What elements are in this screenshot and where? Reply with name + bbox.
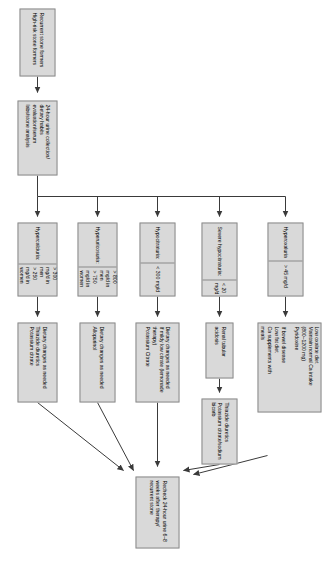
hypocitraturia-tx-line-4: Potassium Citrate — [144, 326, 151, 398]
hyperoxaluria-tx-line-9: meals — [259, 326, 266, 408]
node-diagnosis-hypocitraturia: Hypocitraturia: < 300 mg/d — [139, 222, 175, 296]
node-treatment-severe-hypocitraturia: Thiazide diuretics Potassium citrate/sod… — [201, 398, 237, 464]
hypocitraturia-tx-line-3: therapy) — [150, 326, 157, 398]
flowchart-canvas: Recurrent stone formers High-risk stone … — [0, 0, 329, 561]
hypercalciuria-label: Hypercalciuria: — [18, 223, 56, 263]
hyperoxaluria-tx-line-6: If bowel disease — [279, 326, 286, 408]
node-treatment-hyperoxaluria: Low oxalate diet Maintain normal Ca inta… — [257, 322, 321, 412]
severe-hypocitraturia-tx-line-2: Potassium citrate/sodium — [216, 402, 223, 460]
population-line-1: Recurrent stone formers — [37, 12, 44, 72]
node-population: Recurrent stone formers High-risk stone … — [19, 8, 55, 76]
hypocitraturia-tx-line-1: Dietary changes as needed — [164, 326, 171, 398]
rta-line-1: Renal tubular acidosis — [212, 326, 225, 374]
hypercalciuria-tx-line-2: Thiazide diuretics — [34, 326, 41, 398]
hyperoxaluria-tx-line-3: (800–1200 mg) — [299, 326, 306, 408]
node-workup: 24-hour urine collection/ dietary habits… — [17, 100, 57, 175]
hyperoxaluria-tx-spacer — [286, 326, 293, 408]
hyperuricosuria-tx-line-1: Dietary changes as needed — [97, 326, 104, 398]
figure-rotation-wrapper: Recurrent stone formers High-risk stone … — [0, 0, 329, 561]
node-treatment-hypocitraturia: Dietary changes as needed If mildy low c… — [135, 322, 179, 402]
population-line-2: High-risk stone formers — [30, 12, 37, 72]
node-diagnosis-hypercalciuria: Hypercalciuria: > 300 mg/d in men > 250 … — [17, 222, 57, 296]
hypercalciuria-tx-line-3: Potassium citrate — [27, 326, 34, 398]
hypercalciuria-value-2: > 250 mg/d in women — [17, 267, 37, 292]
hyperuricosuria-tx-line-2: Allopurinol — [90, 326, 97, 398]
workup-line-3: labs/stone analysis — [24, 104, 31, 171]
node-treatment-hypercalciuria: Dietary changes as needed Thiazide diure… — [17, 322, 57, 402]
severe-hypocitraturia-tx-line-3: bicarb — [209, 402, 216, 460]
hypocitraturia-value-1: < 300 mg/d — [154, 266, 161, 292]
hypocitraturia-label: Hypocitraturia: — [140, 223, 174, 262]
hypocitraturia-tx-line-2: If mildy low citrate (lemonade — [157, 326, 164, 398]
workup-line-1: 24-hour urine collection/ — [44, 104, 51, 171]
severe-hypocitraturia-tx-line-1: Thiazide diuretics — [222, 402, 229, 460]
hyperuricosuria-value-1: > 800 mg/d in men — [97, 270, 117, 292]
outcome-line-3: recurrent stone — [147, 480, 154, 544]
severe-hypocitraturia-label: Severe hypocitraturia: — [202, 223, 236, 279]
hyperoxaluria-tx-line-1: Low oxalate diet — [313, 326, 320, 408]
outcome-line-2: weeks after therapy/ — [154, 480, 161, 544]
node-diagnosis-hyperoxaluria: Hyperoxaluria > 45 mg/d — [267, 222, 303, 296]
node-diagnosis-severe-hypocitraturia: Severe hypocitraturia: < 20 mg/d — [201, 222, 237, 296]
hyperoxaluria-tx-line-8: Ca supplements with — [265, 326, 272, 408]
workup-line-2: dietary habits evaluation/serum — [30, 104, 43, 171]
node-diagnosis-hyperuricosuria: Hyperuricosuria: > 800 mg/d in men > 750… — [77, 222, 117, 296]
node-cause-renal-tubular-acidosis: Renal tubular acidosis — [205, 322, 233, 378]
hyperuricosuria-value-2: > 750 mg/d in women — [77, 270, 97, 292]
hyperoxaluria-tx-line-2: Maintain normal Ca intake — [306, 326, 313, 408]
hypercalciuria-value-1: > 300 mg/d in men — [37, 267, 57, 292]
outcome-line-1: Recheck 24-hour urine 6–8 — [160, 480, 167, 544]
hyperoxaluria-label: Hyperoxaluria — [268, 223, 302, 260]
node-treatment-hyperuricosuria: Dietary changes as needed Allopurinol — [79, 322, 115, 402]
hyperoxaluria-tx-line-4: Pyridoxine — [292, 326, 299, 408]
node-outcome-recheck: Recheck 24-hour urine 6–8 weeks after th… — [135, 476, 179, 548]
severe-hypocitraturia-value-1: < 20 mg/d — [212, 283, 225, 294]
hyperuricosuria-label: Hyperuricosuria: — [78, 223, 116, 266]
hypercalciuria-tx-line-1: Dietary changes as needed — [40, 326, 47, 398]
hyperoxaluria-tx-line-7: Low fat diet — [272, 326, 279, 408]
hyperoxaluria-value-1: > 45 mg/d — [282, 264, 289, 292]
